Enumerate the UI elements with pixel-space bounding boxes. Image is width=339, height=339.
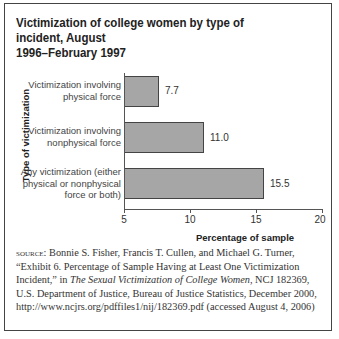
category-label-any: Any victimization (either physical or no… — [21, 166, 121, 201]
category-label-line: Any victimization (either — [21, 166, 121, 178]
category-label-physical: Victimization involving physical force — [28, 79, 121, 102]
x-tick — [190, 209, 191, 213]
category-label-line: force or both) — [21, 189, 121, 201]
bar-value-any: 15.5 — [270, 178, 289, 189]
source-note: source: Bonnie S. Fisher, Francis T. Cul… — [16, 246, 328, 314]
chart-title-line2: 1996–February 1997 — [16, 46, 292, 61]
category-label-line: physical or nonphysical — [21, 178, 121, 190]
x-axis-line — [124, 209, 323, 210]
y-axis-line — [124, 73, 125, 210]
bar-any — [124, 168, 264, 199]
x-tick-label: 10 — [178, 214, 202, 225]
bar-value-physical: 7.7 — [165, 85, 179, 96]
x-tick-label: 15 — [244, 214, 268, 225]
source-label: source: — [16, 247, 46, 258]
x-tick-label: 5 — [112, 214, 136, 225]
source-publication-title: The Sexual Victimization of College Wome… — [70, 274, 250, 285]
chart-title: Victimization of college women by type o… — [16, 16, 292, 61]
bar-physical — [124, 76, 159, 107]
category-label-line: Victimization involving — [28, 79, 121, 91]
x-axis-label: Percentage of sample — [180, 232, 310, 243]
category-label-line: Victimization involving — [28, 125, 121, 137]
bar-value-nonphysical: 11.0 — [210, 132, 229, 143]
x-tick — [322, 209, 323, 213]
chart-title-line1: Victimization of college women by type o… — [16, 16, 292, 46]
category-label-nonphysical: Victimization involving nonphysical forc… — [28, 125, 121, 148]
category-label-line: physical force — [28, 91, 121, 103]
x-tick-label: 20 — [308, 214, 332, 225]
category-label-line: nonphysical force — [28, 137, 121, 149]
x-tick — [124, 209, 125, 213]
bar-nonphysical — [124, 122, 204, 153]
x-tick — [256, 209, 257, 213]
